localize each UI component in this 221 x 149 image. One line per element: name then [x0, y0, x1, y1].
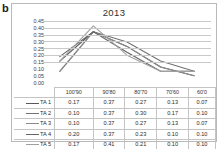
legend-line-icon — [26, 134, 39, 135]
table-cell: 0.17 — [55, 98, 94, 108]
legend-line-icon — [26, 103, 39, 104]
series-line-ta-1 — [60, 32, 194, 76]
gridline — [43, 48, 211, 49]
table-row: TA 40.200.370.230.100.10 — [14, 129, 216, 139]
table-cell: 0.37 — [93, 119, 125, 129]
table-cell: 0.17 — [157, 108, 189, 118]
table-row: TA 10.170.370.270.130.07 — [14, 98, 216, 108]
legend-entry-ta-2: TA 2 — [14, 108, 55, 118]
series-line-ta-3 — [60, 32, 194, 76]
gridline — [43, 21, 211, 22]
table-cell: 0.17 — [55, 140, 94, 149]
table-header-row: 100'9090'8080'7070'6060'0 — [14, 88, 216, 98]
legend-entry-ta-3: TA 3 — [14, 119, 55, 129]
table-row: TA 50.170.410.210.100.10 — [14, 140, 216, 149]
gridline — [43, 62, 211, 63]
table-cell: 0.10 — [55, 119, 94, 129]
gridline — [43, 55, 211, 56]
table-body: TA 10.170.370.270.130.07TA 20.100.370.30… — [14, 98, 216, 149]
table-cell: 0.41 — [93, 140, 125, 149]
series-line-ta-2 — [60, 32, 194, 72]
line-chart-svg — [43, 20, 211, 86]
table-cell: 0.27 — [125, 98, 157, 108]
panel-label-b: b — [2, 3, 9, 14]
table-cell: 0.27 — [125, 119, 157, 129]
plot-area — [43, 20, 211, 86]
legend-line-icon — [26, 144, 39, 145]
chart-frame: 2013 0.450.400.350.300.250.200.150.100.0… — [11, 3, 217, 142]
figure-panel-b: b 2013 0.450.400.350.300.250.200.150.100… — [0, 0, 221, 149]
column-header: 100'90 — [55, 88, 94, 98]
gridline — [43, 41, 211, 42]
table-cell: 0.37 — [93, 108, 125, 118]
table-cell: 0.10 — [157, 140, 189, 149]
column-header: 80'70 — [125, 88, 157, 98]
table-cell: 0.23 — [125, 129, 157, 139]
chart-title: 2013 — [12, 7, 216, 18]
table-cell: 0.13 — [157, 119, 189, 129]
legend-line-icon — [26, 123, 39, 124]
legend-entry-ta-5: TA 5 — [14, 140, 55, 149]
table-cell: 0.10 — [157, 129, 189, 139]
table-cell: 0.10 — [189, 108, 216, 118]
table-header: 100'9090'8080'7070'6060'0 — [14, 88, 216, 98]
legend-label: TA 3 — [40, 119, 51, 128]
legend-label: TA 1 — [40, 98, 51, 107]
gridline — [43, 28, 211, 29]
table-cell: 0.10 — [189, 129, 216, 139]
data-table: 100'9090'8080'7070'6060'0 TA 10.170.370.… — [14, 87, 216, 149]
table-cell: 0.20 — [55, 129, 94, 139]
legend-label: TA 4 — [40, 130, 51, 139]
table-cell: 0.37 — [93, 129, 125, 139]
legend-label: TA 5 — [40, 140, 51, 149]
legend-label: TA 2 — [40, 109, 51, 118]
legend-entry-ta-4: TA 4 — [14, 129, 55, 139]
column-header: 90'80 — [93, 88, 125, 98]
legend-entry-ta-1: TA 1 — [14, 98, 55, 108]
table-cell: 0.10 — [189, 140, 216, 149]
table-cell: 0.07 — [189, 98, 216, 108]
column-header: 70'60 — [157, 88, 189, 98]
table-cell: 0.13 — [157, 98, 189, 108]
table-cell: 0.21 — [125, 140, 157, 149]
table-cell: 0.10 — [55, 108, 94, 118]
table-cell: 0.30 — [125, 108, 157, 118]
column-header: 60'0 — [189, 88, 216, 98]
table-cell: 0.07 — [189, 119, 216, 129]
table-row: TA 20.100.370.300.170.10 — [14, 108, 216, 118]
table-corner-cell — [14, 88, 55, 98]
y-axis-ticks: 0.450.400.350.300.250.200.150.100.050.00 — [20, 19, 44, 87]
table-cell: 0.37 — [93, 98, 125, 108]
table-row: TA 30.100.370.270.130.07 — [14, 119, 216, 129]
gridline — [43, 35, 211, 36]
legend-line-icon — [26, 113, 39, 114]
